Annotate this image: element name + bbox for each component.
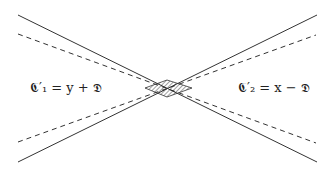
diagram-canvas: 𝕮′₁ = y + 𝕯 𝕮′₂ = x − 𝕯 [0,0,334,172]
right-region-label: 𝕮′₂ = x − 𝕯 [238,80,310,96]
left-region-label: 𝕮′₁ = y + 𝕯 [30,80,102,96]
